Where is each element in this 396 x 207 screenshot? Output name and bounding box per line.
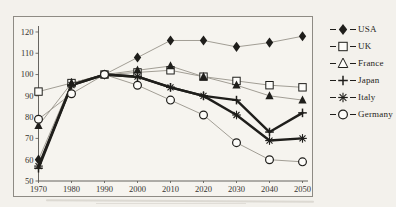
- legend-item-usa: USA: [329, 23, 395, 36]
- legend-item-japan: Japan: [329, 74, 395, 87]
- japan-legend-marker-icon: [329, 74, 358, 87]
- svg-text:80: 80: [25, 112, 34, 122]
- svg-text:110: 110: [21, 48, 33, 58]
- svg-text:2010: 2010: [162, 184, 179, 194]
- legend-label-france: France: [358, 57, 384, 70]
- svg-text:2040: 2040: [261, 184, 278, 194]
- legend-item-uk: UK: [329, 40, 395, 53]
- svg-text:100: 100: [21, 69, 34, 79]
- svg-text:70: 70: [25, 133, 34, 143]
- legend-item-germany: Germany: [329, 108, 395, 121]
- svg-text:2000: 2000: [129, 184, 146, 194]
- legend-label-germany: Germany: [358, 108, 393, 121]
- legend-item-italy: Italy: [329, 91, 395, 104]
- legend-label-usa: USA: [358, 23, 377, 36]
- svg-text:1990: 1990: [96, 184, 113, 194]
- scan-artifact-line-2: [96, 203, 246, 204]
- svg-text:1980: 1980: [63, 184, 80, 194]
- svg-text:60: 60: [25, 155, 34, 165]
- italy-legend-marker-icon: [329, 91, 358, 104]
- legend-label-italy: Italy: [358, 91, 376, 104]
- svg-text:1970: 1970: [30, 184, 47, 194]
- svg-text:90: 90: [25, 91, 34, 101]
- legend-label-japan: Japan: [358, 74, 380, 87]
- legend-item-france: France: [329, 57, 395, 70]
- france-legend-marker-icon: [329, 57, 358, 70]
- scanned-chart-page: 5060708090100110120197019801990200020102…: [0, 0, 396, 207]
- chart-legend: USA UK France Japan Italy Germany: [329, 23, 395, 125]
- uk-legend-marker-icon: [329, 40, 358, 53]
- germany-legend-marker-icon: [329, 108, 358, 121]
- svg-text:2020: 2020: [195, 184, 212, 194]
- legend-label-uk: UK: [358, 40, 371, 53]
- svg-text:2050: 2050: [294, 184, 311, 194]
- usa-legend-marker-icon: [329, 23, 358, 36]
- svg-text:120: 120: [21, 27, 34, 37]
- svg-text:2030: 2030: [228, 184, 245, 194]
